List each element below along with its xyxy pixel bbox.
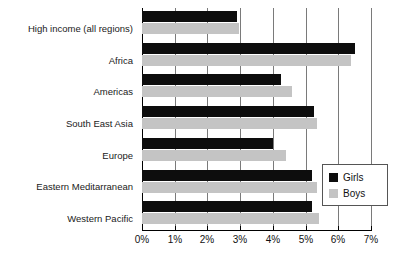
x-axis-tick [175,226,176,231]
bar-boys [142,23,239,34]
chart-legend: GirlsBoys [322,164,388,206]
category-label: High income (all regions) [0,23,133,34]
x-axis-tick-label: 3% [227,234,253,246]
bar-girls [142,170,312,181]
x-axis-tick-label: 5% [293,234,319,246]
bar-boys [142,213,319,224]
x-axis-tick-label: 6% [325,234,351,246]
category-label: South East Asia [0,118,133,129]
x-axis-tick [273,226,274,231]
legend-label: Boys [343,188,365,199]
bar-boys [142,150,286,161]
bar-boys [142,182,317,193]
bar-group [142,71,371,103]
x-axis-tick [338,226,339,231]
x-axis-tick-label: 7% [358,234,384,246]
x-axis-tick [142,226,143,231]
legend-swatch-boys-icon [329,189,338,198]
x-axis-tick-label: 1% [162,234,188,246]
legend-item-girls: Girls [329,169,387,185]
x-axis-tick [306,226,307,231]
bar-group [142,8,371,40]
category-label: Europe [0,150,133,161]
x-axis-tick [207,226,208,231]
legend-item-boys: Boys [329,185,387,201]
bar-boys [142,86,292,97]
x-axis-tick [240,226,241,231]
bar-girls [142,106,314,117]
bar-boys [142,118,317,129]
x-axis-tick [371,226,372,231]
category-axis: High income (all regions)AfricaAmericasS… [0,8,138,230]
bar-boys [142,55,351,66]
bar-chart: High income (all regions)AfricaAmericasS… [0,0,395,266]
category-label: Western Pacific [0,213,133,224]
bar-group [142,103,371,135]
bar-girls [142,11,237,22]
bar-girls [142,201,312,212]
category-label: Eastern Meditarranean [0,181,133,192]
x-axis-tick-label: 4% [260,234,286,246]
legend-swatch-girls-icon [329,173,338,182]
x-axis-tick-label: 0% [129,234,155,246]
bar-group [142,135,371,167]
category-label: Americas [0,86,133,97]
x-axis-tick-label: 2% [194,234,220,246]
bar-group [142,40,371,72]
category-label: Africa [0,55,133,66]
legend-label: Girls [343,172,364,183]
x-axis-line [142,230,371,231]
bar-girls [142,138,273,149]
bar-girls [142,74,281,85]
bar-girls [142,43,355,54]
